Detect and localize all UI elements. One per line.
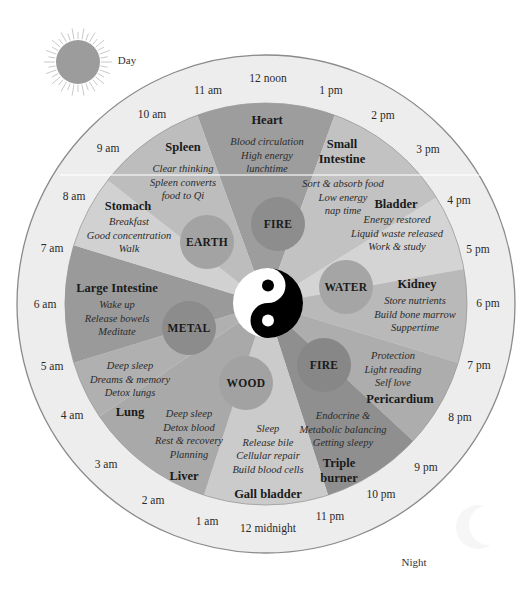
hour-label: 6 pm	[476, 297, 499, 309]
hour-label: 11 pm	[316, 510, 345, 522]
organ-name: Large Intestine	[76, 281, 158, 296]
description-line: Metabolic balancing	[299, 422, 386, 436]
organ-description: BreakfastGood concentrationWalk	[87, 215, 171, 256]
yin-yang-icon	[233, 268, 303, 338]
description-line: lunchtime	[230, 162, 303, 176]
organ-name-line: Small	[319, 137, 366, 152]
description-line: Detox lungs	[90, 386, 170, 400]
organ-description: SleepRelease bileCellular repairBuild bl…	[232, 422, 303, 476]
organ-description: Clear thinkingSpleen convertsfood to Qi	[150, 162, 216, 203]
description-line: Dreams & memory	[90, 372, 170, 386]
organ-name: Liver	[169, 469, 198, 484]
hour-label: 3 pm	[416, 143, 439, 155]
description-line: Work & study	[351, 240, 443, 254]
organ-description: ProtectionLight readingSelf love	[364, 349, 421, 390]
description-line: Meditate	[85, 325, 149, 339]
organ-description: Energy restoredLiquid waste releasedWork…	[351, 213, 443, 254]
hour-label: 10 pm	[366, 488, 395, 500]
crescent-moon-icon	[456, 505, 509, 549]
description-line: Build blood cells	[232, 463, 303, 477]
description-line: Endocrine &	[299, 409, 386, 423]
hour-label: 11 am	[194, 84, 222, 96]
hour-label: 7 pm	[467, 359, 490, 371]
description-line: Wake up	[85, 298, 149, 312]
hour-label: 1 pm	[319, 84, 342, 96]
description-line: Blood circulation	[230, 135, 303, 149]
hour-label: 12 noon	[249, 72, 286, 84]
element-label: WATER	[325, 281, 368, 293]
description-line: Energy restored	[351, 213, 443, 227]
organ-name: Tripleburner	[320, 456, 358, 486]
organ-name: Stomach	[105, 199, 152, 214]
organ-description: Blood circulationHigh energylunchtime	[230, 135, 303, 176]
element-label: WOOD	[227, 377, 266, 389]
description-line: Sort & absorb food	[302, 177, 383, 191]
description-line: Walk	[87, 242, 171, 256]
organ-name: SmallIntestine	[319, 137, 366, 167]
description-line: Light reading	[364, 362, 421, 376]
hour-label: 12 midnight	[240, 522, 296, 534]
hour-label: 9 am	[97, 142, 120, 154]
element-label: FIRE	[264, 218, 293, 230]
sun-icon	[44, 29, 112, 96]
description-line: Release bowels	[85, 311, 149, 325]
hour-label: 2 am	[142, 494, 165, 506]
description-line: Protection	[364, 349, 421, 363]
organ-description: Deep sleepDetox bloodRest & recoveryPlan…	[155, 407, 223, 461]
description-line: Clear thinking	[150, 162, 216, 176]
organ-description: Wake upRelease bowelsMeditate	[85, 298, 149, 339]
hour-label: 5 am	[41, 360, 64, 372]
element-label: EARTH	[186, 236, 228, 248]
organ-name: Spleen	[165, 140, 200, 155]
organ-name-line: Intestine	[319, 152, 366, 167]
organ-name-line: Triple	[320, 456, 358, 471]
hour-label: 5 pm	[466, 243, 489, 255]
hour-label: 10 am	[138, 108, 166, 120]
hour-label: 3 am	[95, 458, 118, 470]
hour-label: 4 pm	[447, 194, 470, 206]
hour-label: 6 am	[34, 298, 57, 310]
description-line: Breakfast	[87, 215, 171, 229]
hour-label: 9 pm	[414, 461, 437, 473]
description-line: Rest & recovery	[155, 434, 223, 448]
element-label: FIRE	[310, 359, 339, 371]
organ-description: Deep sleepDreams & memoryDetox lungs	[90, 359, 170, 400]
organ-name: Gall bladder	[234, 487, 302, 502]
hour-label: 8 am	[63, 190, 86, 202]
organ-description: Sort & absorb foodLow energynap time	[302, 177, 383, 218]
organ-name: Lung	[116, 405, 145, 420]
organ-name: Kidney	[398, 277, 437, 292]
description-line: Deep sleep	[90, 359, 170, 373]
organ-name: Bladder	[374, 197, 417, 212]
organ-name: Pericardium	[366, 392, 433, 407]
organ-description: Endocrine &Metabolic balancingGetting sl…	[299, 409, 386, 450]
day-label: Day	[118, 54, 136, 66]
description-line: Build bone marrow	[374, 307, 455, 321]
organ-name: Heart	[251, 113, 282, 128]
description-line: food to Qi	[150, 189, 216, 203]
description-line: Low energy	[302, 190, 383, 204]
hour-label: 2 pm	[371, 109, 394, 121]
night-label: Night	[401, 556, 426, 568]
hour-label: 7 am	[41, 242, 64, 254]
hour-label: 8 pm	[448, 411, 471, 423]
description-line: Planning	[155, 448, 223, 462]
description-line: Sleep	[232, 422, 303, 436]
organ-name-line: burner	[320, 471, 358, 486]
description-line: Store nutrients	[374, 294, 455, 308]
description-line: Spleen converts	[150, 175, 216, 189]
description-line: Good concentration	[87, 228, 171, 242]
description-line: Release bile	[232, 436, 303, 450]
description-line: Suppertime	[374, 321, 455, 335]
description-line: Cellular repair	[232, 449, 303, 463]
description-line: Deep sleep	[155, 407, 223, 421]
description-line: Detox blood	[155, 421, 223, 435]
hour-label: 1 am	[196, 515, 219, 527]
organ-description: Store nutrientsBuild bone marrowSupperti…	[374, 294, 455, 335]
element-label: METAL	[168, 322, 211, 334]
description-line: High energy	[230, 148, 303, 162]
description-line: Liquid waste released	[351, 226, 443, 240]
description-line: Getting sleepy	[299, 436, 386, 450]
hour-label: 4 am	[61, 409, 84, 421]
description-line: Self love	[364, 376, 421, 390]
